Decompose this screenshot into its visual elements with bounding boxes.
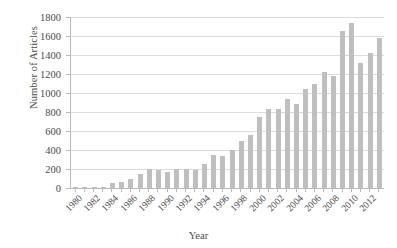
bar [230, 150, 235, 188]
x-tick-mark [185, 188, 186, 192]
bar [184, 169, 189, 188]
bar [193, 170, 198, 188]
x-tick-mark [268, 188, 269, 192]
x-tick-mark [277, 188, 278, 192]
bar [303, 89, 308, 188]
x-tick-mark [332, 188, 333, 192]
bar-chart: Number of Articles 020040060080010001200… [0, 0, 397, 248]
bar [349, 23, 354, 188]
bar [174, 169, 179, 188]
bar [340, 31, 345, 188]
x-tick-mark [305, 188, 306, 192]
y-tick-label: 1600 [40, 31, 61, 42]
x-tick-mark [296, 188, 297, 192]
bar [211, 155, 216, 188]
x-tick-mark [351, 188, 352, 192]
x-tick-mark [111, 188, 112, 192]
x-tick-mark [240, 188, 241, 192]
y-tick-label: 1000 [40, 88, 61, 99]
bar [266, 109, 271, 188]
y-tick-label: 800 [45, 107, 61, 118]
y-tick-label: 400 [45, 145, 61, 156]
bar [248, 135, 253, 188]
y-tick-label: 1800 [40, 12, 61, 23]
bar [368, 53, 373, 188]
bar [257, 117, 262, 188]
bar [220, 156, 225, 188]
bar [358, 63, 363, 188]
x-tick-mark [323, 188, 324, 192]
x-tick-mark [286, 188, 287, 192]
y-axis-ticks: 020040060080010001200140016001800 [0, 17, 70, 188]
x-tick-mark [213, 188, 214, 192]
x-tick-mark [102, 188, 103, 192]
bar [294, 104, 299, 188]
y-tick-label: 1200 [40, 69, 61, 80]
bar [147, 169, 152, 188]
x-tick-mark [194, 188, 195, 192]
bar [156, 170, 161, 188]
x-tick-mark [250, 188, 251, 192]
bar [276, 109, 281, 188]
x-tick-mark [93, 188, 94, 192]
x-tick-mark [203, 188, 204, 192]
x-tick-mark [148, 188, 149, 192]
x-tick-mark [369, 188, 370, 192]
x-tick-mark [167, 188, 168, 192]
bar [322, 72, 327, 188]
x-tick-mark [222, 188, 223, 192]
bar-series [71, 17, 384, 188]
bar [285, 99, 290, 188]
bar [312, 84, 317, 188]
x-tick-mark [84, 188, 85, 192]
x-tick-mark [259, 188, 260, 192]
x-tick-mark [130, 188, 131, 192]
x-axis-tick-labels: 1980198219841986198819901992199419961998… [70, 193, 383, 227]
x-tick-mark [157, 188, 158, 192]
bar [128, 179, 133, 189]
y-tick-label: 600 [45, 126, 61, 137]
x-tick-mark [231, 188, 232, 192]
y-tick-label: 1400 [40, 50, 61, 61]
bar [239, 141, 244, 188]
x-tick-mark [75, 188, 76, 192]
y-tick-label: 200 [45, 164, 61, 175]
x-tick-mark [139, 188, 140, 192]
bar [165, 172, 170, 188]
bar [331, 76, 336, 188]
x-tick-mark [342, 188, 343, 192]
bar [202, 164, 207, 188]
x-tick-mark [378, 188, 379, 192]
plot-area [70, 17, 384, 189]
x-tick-mark [121, 188, 122, 192]
bar [377, 38, 382, 188]
x-tick-mark [314, 188, 315, 192]
x-tick-mark [360, 188, 361, 192]
y-tick-label: 0 [56, 183, 61, 194]
bar [138, 174, 143, 188]
x-tick-mark [176, 188, 177, 192]
x-axis-title: Year [0, 230, 397, 241]
